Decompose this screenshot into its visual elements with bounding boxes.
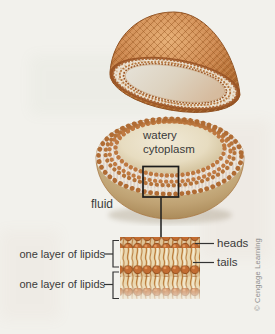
vesicle-cap — [106, 12, 245, 119]
label-watery-cytoplasm: watery cytoplasm — [143, 129, 215, 156]
inset-heads-row-top — [120, 237, 200, 248]
copyright-credit: © Cengage Learning — [253, 238, 262, 311]
label-fluid: fluid — [91, 197, 113, 211]
bracket-top-layer — [113, 241, 119, 268]
label-lipid-layer-bottom: one layer of lipids — [16, 278, 105, 291]
label-lipid-layer-top: one layer of lipids — [16, 248, 105, 261]
bilayer-inset — [118, 237, 202, 305]
label-heads: heads — [217, 237, 248, 251]
textbook-figure-page: watery cytoplasm fluid heads tails one l… — [0, 0, 275, 334]
label-tails: tails — [217, 256, 237, 270]
inset-heads-row-middle — [120, 266, 200, 277]
inset-bottom-fade — [118, 283, 202, 305]
